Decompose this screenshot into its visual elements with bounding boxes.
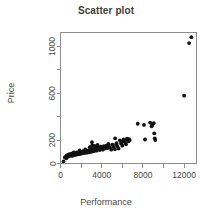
y-axis-tick-label: 0 bbox=[48, 161, 58, 166]
data-point bbox=[123, 139, 127, 143]
data-point bbox=[182, 94, 186, 98]
data-point bbox=[150, 124, 154, 128]
x-axis-tick-label: 4000 bbox=[92, 170, 111, 180]
data-point bbox=[143, 138, 147, 142]
data-point bbox=[113, 136, 117, 140]
y-axis-tick-label: 1000 bbox=[48, 37, 58, 56]
data-point bbox=[107, 142, 111, 146]
x-axis-tick-label: 0 bbox=[58, 170, 63, 180]
axes-group bbox=[61, 33, 197, 164]
data-point bbox=[81, 150, 85, 154]
data-point bbox=[136, 122, 140, 126]
data-point bbox=[152, 121, 156, 125]
data-point bbox=[62, 159, 66, 163]
data-point bbox=[119, 140, 123, 144]
data-point bbox=[120, 144, 124, 148]
data-point bbox=[153, 138, 157, 142]
data-point bbox=[124, 142, 128, 146]
data-points-group bbox=[62, 35, 194, 163]
data-point bbox=[142, 123, 146, 127]
scatter-plot-figure: Scatter plot Price Performance 040008000… bbox=[0, 0, 212, 215]
data-point bbox=[115, 141, 119, 145]
data-point bbox=[117, 147, 121, 151]
tick-labels-group: 0400080001200002006001000 bbox=[48, 37, 197, 180]
data-point bbox=[90, 140, 94, 144]
y-axis-tick-label: 200 bbox=[48, 133, 58, 147]
data-point bbox=[94, 145, 98, 149]
plot-frame bbox=[61, 33, 197, 164]
data-point bbox=[91, 149, 95, 153]
data-point bbox=[152, 131, 156, 135]
y-axis-tick-label: 600 bbox=[48, 86, 58, 100]
data-point bbox=[72, 150, 76, 154]
data-point bbox=[187, 41, 191, 45]
plot-canvas: 0400080001200002006001000 bbox=[0, 0, 212, 215]
data-point bbox=[113, 147, 117, 151]
x-axis-tick-label: 8000 bbox=[133, 170, 152, 180]
data-point bbox=[189, 35, 193, 39]
x-axis-tick-label: 12000 bbox=[172, 170, 196, 180]
